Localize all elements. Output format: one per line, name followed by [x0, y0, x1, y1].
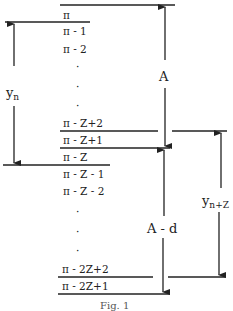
stack-item-pi-minus-z-plus-1: π - Z+1	[63, 135, 103, 146]
label-y-n: yn	[6, 86, 19, 102]
ellipsis-dot: ·	[76, 101, 79, 112]
stack-item-pi-minus-z-plus-2: π - Z+2	[63, 118, 103, 129]
ellipsis-dot: ·	[76, 246, 79, 257]
stack-item-pi-minus-1: π - 1	[63, 26, 87, 37]
label-y-n-plus-z-sub: n+Z	[209, 200, 229, 210]
label-a: A	[159, 70, 168, 83]
stack-item-pi-minus-2z-plus-2: π - 2Z+2	[62, 264, 109, 275]
ellipsis-dot: ·	[76, 62, 79, 73]
stack-item-pi-minus-2z-plus-1: π - 2Z+1	[62, 281, 109, 292]
label-a-minus-d: A - d	[147, 222, 177, 235]
ellipsis-dot: ·	[76, 207, 79, 218]
stack-item-pi-minus-z-minus-1: π - Z - 1	[63, 169, 104, 180]
ellipsis-dot: ·	[76, 82, 79, 93]
label-y-n-sub: n	[13, 92, 19, 102]
label-y-n-plus-z: yn+Z	[202, 194, 229, 210]
ellipsis-dot: ·	[76, 227, 79, 238]
stack-item-pi: π	[63, 10, 70, 21]
stack-item-pi-minus-2: π - 2	[63, 44, 87, 55]
stack-item-pi-minus-z-minus-2: π - Z - 2	[63, 186, 104, 197]
stack-item-pi-minus-z: π - Z	[63, 152, 87, 163]
figure-caption: Fig. 1	[100, 300, 129, 311]
